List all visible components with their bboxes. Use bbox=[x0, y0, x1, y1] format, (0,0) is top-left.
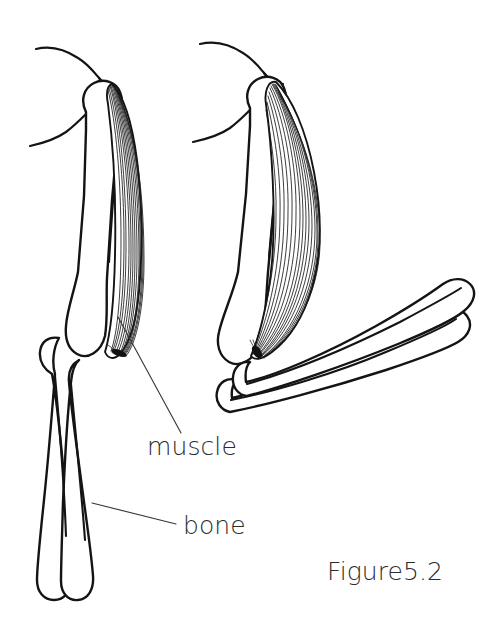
bone-label: bone bbox=[183, 511, 246, 540]
anatomy-diagram-svg: muscle bone Figure5.2 bbox=[0, 0, 485, 638]
muscle-label: muscle bbox=[147, 432, 237, 461]
figure-caption: Figure5.2 bbox=[327, 557, 443, 586]
figure-container: muscle bone Figure5.2 bbox=[0, 0, 485, 638]
